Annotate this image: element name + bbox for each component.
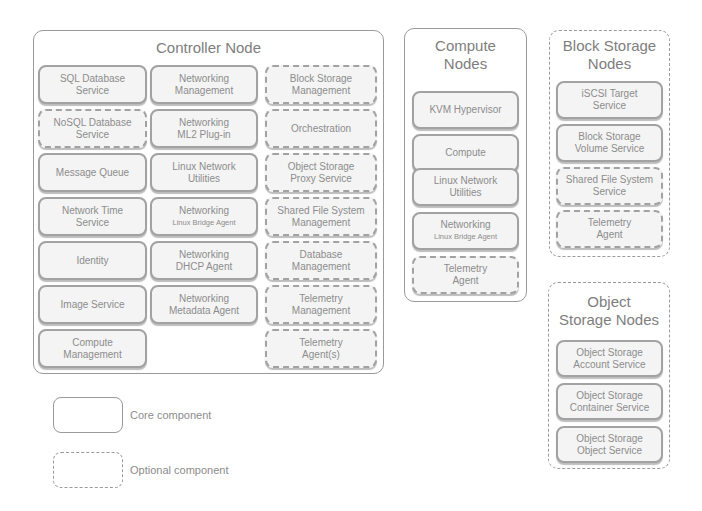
component-label-line2: ML2 Plug-in (177, 129, 230, 141)
component-orchestration: Orchestration (265, 109, 377, 148)
component-label-line1: Shared File System (566, 174, 653, 186)
component-label-line2: Linux Bridge Agent (434, 231, 497, 243)
compute-title-line2: Nodes (444, 55, 487, 72)
component-label-line1: Telemetry (444, 263, 487, 275)
component-label-line2: Proxy Service (288, 173, 355, 185)
component-label-line1: Shared File System (277, 205, 364, 217)
component-label-line1: Object Storage (573, 347, 645, 359)
component-label-line2: Utilities (434, 187, 497, 199)
component-label-line1: SQL Database (60, 73, 125, 85)
compute-title-line1: Compute (435, 37, 496, 54)
component-label-line1: Networking (169, 293, 239, 305)
component-iscsi-target-service: iSCSI TargetService (556, 81, 663, 119)
component-label-line1: Networking (173, 205, 236, 217)
component-label-line1: Identity (76, 255, 108, 267)
component-telemetry-management: TelemetryManagement (265, 285, 377, 324)
component-networking-ml2-plug-in: NetworkingML2 Plug-in (150, 109, 258, 148)
component-label-line2: Management (290, 85, 352, 97)
component-label-line1: Object Storage (570, 390, 649, 402)
component-block-storage-management: Block StorageManagement (265, 65, 377, 104)
component-identity: Identity (38, 241, 147, 280)
component-sql-database-service: SQL DatabaseService (38, 65, 147, 104)
component-network-time-service: Network TimeService (38, 197, 147, 236)
object-storage-title-line2: Storage Nodes (559, 311, 659, 328)
component-label-line2: Container Service (570, 402, 649, 414)
component-label-line2: Agent(s) (299, 349, 342, 361)
component-label-line2: DHCP Agent (176, 261, 233, 273)
component-object-storage-proxy-service: Object StorageProxy Service (265, 153, 377, 192)
component-compute-management: ComputeManagement (38, 329, 147, 368)
component-label-line1: Telemetry (292, 293, 350, 305)
component-label-line2: Volume Service (575, 143, 644, 155)
component-label-line1: Networking (175, 73, 233, 85)
component-label-line1: Message Queue (56, 167, 129, 179)
component-label-line2: Service (566, 186, 653, 198)
component-image-service: Image Service (38, 285, 147, 324)
block-storage-title-line2: Nodes (588, 55, 631, 72)
component-object-storage-container-service: Object StorageContainer Service (556, 383, 663, 420)
component-label-line1: KVM Hypervisor (429, 104, 501, 116)
component-label-line2: Metadata Agent (169, 305, 239, 317)
component-label-line2: Management (63, 349, 121, 361)
component-label-line2: Object Service (576, 445, 643, 457)
component-networking-linux-bridge-agent: NetworkingLinux Bridge Agent (412, 212, 519, 250)
component-label-line2: Service (582, 100, 638, 112)
compute-nodes-title: Compute Nodes (405, 37, 526, 73)
legend-core-label: Core component (130, 409, 211, 421)
component-label-line1: Telemetry (588, 217, 631, 229)
component-linux-network-utilities: Linux NetworkUtilities (150, 153, 258, 192)
component-label-line1: Database (292, 249, 350, 261)
legend-optional-swatch (53, 452, 123, 488)
component-label-line2: Account Service (573, 359, 645, 371)
component-label-line2: Management (175, 85, 233, 97)
component-telemetry-agent: TelemetryAgent (556, 210, 663, 248)
component-label-line2: Agent (588, 229, 631, 241)
component-label-line1: Network Time (62, 205, 123, 217)
object-storage-title-line1: Object (587, 293, 630, 310)
component-object-storage-object-service: Object StorageObject Service (556, 426, 663, 463)
component-compute: Compute (412, 134, 519, 172)
component-label-line2: Management (277, 217, 364, 229)
component-telemetry-agent: TelemetryAgent (412, 256, 519, 294)
component-shared-file-system-service: Shared File SystemService (556, 167, 663, 205)
component-message-queue: Message Queue (38, 153, 147, 192)
component-label-line2: Management (292, 261, 350, 273)
component-label-line2: Utilities (172, 173, 235, 185)
component-label-line1: Block Storage (575, 131, 644, 143)
legend-core-swatch (53, 397, 123, 433)
component-label-line1: Image Service (61, 299, 125, 311)
component-label-line1: Linux Network (434, 175, 497, 187)
component-networking-dhcp-agent: NetworkingDHCP Agent (150, 241, 258, 280)
component-label-line1: Block Storage (290, 73, 352, 85)
component-networking-management: NetworkingManagement (150, 65, 258, 104)
component-label-line1: iSCSI Target (582, 88, 638, 100)
component-label-line2: Service (53, 129, 131, 141)
component-label-line2: Service (62, 217, 123, 229)
component-label-line2: Service (60, 85, 125, 97)
component-label-line1: Networking (176, 249, 233, 261)
component-label-line1: Compute (63, 337, 121, 349)
component-networking-metadata-agent: NetworkingMetadata Agent (150, 285, 258, 324)
component-label-line1: Telemetry (299, 337, 342, 349)
component-object-storage-account-service: Object StorageAccount Service (556, 340, 663, 377)
component-database-management: DatabaseManagement (265, 241, 377, 280)
component-networking-linux-bridge-agent: NetworkingLinux Bridge Agent (150, 197, 258, 236)
component-label-line2: Management (292, 305, 350, 317)
component-linux-network-utilities: Linux NetworkUtilities (412, 168, 519, 206)
component-label-line1: Object Storage (576, 433, 643, 445)
component-label-line2: Linux Bridge Agent (173, 217, 236, 229)
component-label-line1: Networking (177, 117, 230, 129)
controller-node-title: Controller Node (34, 39, 383, 57)
component-kvm-hypervisor: KVM Hypervisor (412, 91, 519, 129)
component-label-line1: Object Storage (288, 161, 355, 173)
component-shared-file-system-management: Shared File SystemManagement (265, 197, 377, 236)
component-label-line1: NoSQL Database (53, 117, 131, 129)
component-nosql-database-service: NoSQL DatabaseService (38, 109, 147, 148)
component-label-line2: Agent (444, 275, 487, 287)
component-telemetry-agent-s: TelemetryAgent(s) (265, 329, 377, 368)
block-storage-title-line1: Block Storage (563, 37, 656, 54)
component-label-line1: Networking (434, 219, 497, 231)
legend-optional-label: Optional component (130, 464, 228, 476)
component-label-line1: Linux Network (172, 161, 235, 173)
object-storage-nodes-title: Object Storage Nodes (549, 293, 669, 329)
